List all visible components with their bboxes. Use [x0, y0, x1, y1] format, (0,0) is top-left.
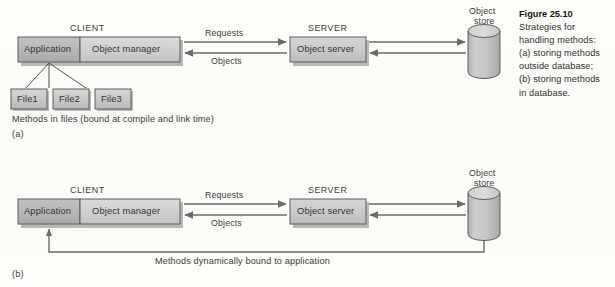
- footnote-a: Methods in files (bound at compile and l…: [12, 114, 214, 124]
- caption-line-2: handling methods:: [519, 34, 613, 47]
- application-label-a: Application: [24, 44, 71, 54]
- application-label-b: Application: [24, 206, 71, 216]
- object-server-label-a: Object server: [297, 44, 354, 54]
- caption-line-1: Strategies for: [519, 21, 613, 34]
- object-store-label-b-line2: store: [474, 178, 494, 188]
- figure-number: Figure 25.10: [519, 8, 613, 21]
- part-label-b: (b): [12, 269, 24, 279]
- file1-connector-a: [26, 63, 49, 88]
- object-store-label-b-line1: Object: [469, 168, 495, 178]
- object-store-cylinder-a: [468, 25, 500, 79]
- caption-line-5: (b) storing methods: [519, 73, 613, 86]
- objects-label-a: Objects: [211, 56, 242, 66]
- caption-line-6: in database.: [519, 87, 613, 100]
- part-label-a: (a): [12, 129, 24, 139]
- client-header-b: CLIENT: [70, 185, 105, 195]
- figure-caption: Figure 25.10 Strategies for handling met…: [519, 8, 613, 100]
- server-header-a: SERVER: [308, 23, 347, 33]
- figure-25-10: CLIENT Application Object manager SERVER…: [0, 0, 615, 287]
- caption-line-4: outside database;: [519, 60, 613, 73]
- object-store-cylinder-b: [468, 187, 500, 241]
- file3-label: File3: [101, 94, 122, 104]
- object-manager-label-a: Object manager: [92, 44, 160, 54]
- object-server-label-b: Object server: [297, 206, 354, 216]
- file3-connector-a: [49, 63, 86, 88]
- caption-line-3: (a) storing methods: [519, 47, 613, 60]
- diagram-a-graphics: [11, 25, 500, 112]
- object-store-label-a-line1: Object: [469, 6, 495, 16]
- objects-label-b: Objects: [211, 218, 242, 228]
- server-header-b: SERVER: [308, 185, 347, 195]
- requests-label-b: Requests: [205, 190, 243, 200]
- object-manager-label-b: Object manager: [92, 206, 160, 216]
- object-store-label-a-line2: store: [474, 16, 494, 26]
- footnote-b: Methods dynamically bound to application: [155, 256, 330, 266]
- file1-label: File1: [17, 94, 38, 104]
- diagram-b-graphics: [18, 187, 500, 253]
- file2-label: File2: [59, 94, 80, 104]
- client-header-a: CLIENT: [70, 23, 105, 33]
- requests-label-a: Requests: [205, 28, 243, 38]
- dynamic-binding-feedback-arrow: [49, 229, 484, 252]
